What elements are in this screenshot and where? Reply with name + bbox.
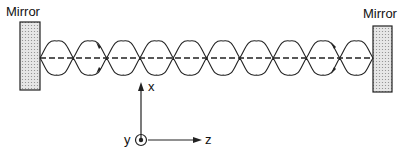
coordinate-axes [136, 82, 203, 146]
wave-upper-envelope [40, 41, 373, 58]
axis-z-label: z [205, 133, 212, 146]
mirror-left [20, 22, 40, 90]
axis-y-label: y [124, 133, 131, 146]
axis-x-label: x [148, 80, 155, 93]
wave-lower-envelope [40, 58, 373, 75]
mirror-right [373, 26, 392, 92]
